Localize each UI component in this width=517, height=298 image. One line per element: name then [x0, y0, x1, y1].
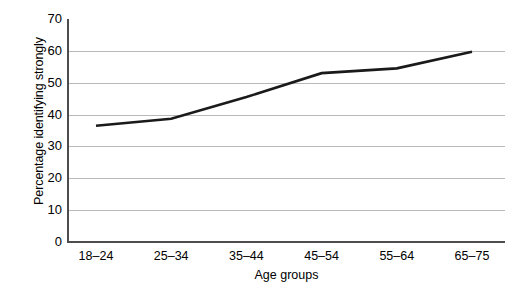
x-axis-title: Age groups — [68, 268, 505, 282]
series-line-percentage-identifying-strongly — [96, 52, 472, 126]
x-tick-label-5: 65–75 — [427, 249, 517, 263]
line-chart: Percentage identifying strongly 01020304… — [0, 0, 517, 298]
